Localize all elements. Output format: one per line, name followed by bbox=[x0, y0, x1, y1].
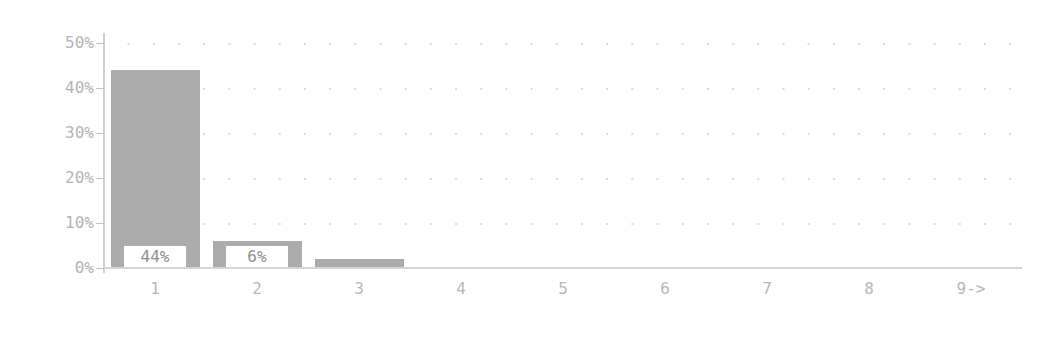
y-tick-mark bbox=[96, 268, 104, 269]
y-tick-label: 40% bbox=[65, 80, 94, 96]
y-tick-mark bbox=[96, 43, 104, 44]
y-tick-label: 20% bbox=[65, 170, 94, 186]
bars-layer: 44%6% bbox=[104, 40, 1022, 268]
bar-value-label: 6% bbox=[226, 246, 288, 268]
y-tick-label: 50% bbox=[65, 35, 94, 51]
x-tick-label: 9-> bbox=[957, 281, 986, 297]
x-tick-label: 3 bbox=[354, 281, 364, 297]
y-tick-label: 30% bbox=[65, 125, 94, 141]
y-tick-label: 10% bbox=[65, 215, 94, 231]
bar-chart: 50%40%30%20%10%0% 44%6% 123456789-> bbox=[0, 0, 1062, 337]
y-tick-mark bbox=[96, 178, 104, 179]
x-tick-label: 8 bbox=[864, 281, 874, 297]
y-tick-mark bbox=[96, 88, 104, 89]
x-tick-label: 7 bbox=[762, 281, 772, 297]
x-tick-label: 6 bbox=[660, 281, 670, 297]
bar-value-label: 44% bbox=[124, 246, 186, 268]
x-tick-label: 2 bbox=[252, 281, 262, 297]
y-tick-mark bbox=[96, 133, 104, 134]
y-tick-label: 0% bbox=[75, 260, 94, 276]
x-tick-label: 5 bbox=[558, 281, 568, 297]
bar bbox=[111, 70, 200, 268]
x-tick-label: 4 bbox=[456, 281, 466, 297]
y-tick-mark bbox=[96, 223, 104, 224]
x-axis-line bbox=[104, 267, 1022, 269]
x-tick-label: 1 bbox=[150, 281, 160, 297]
